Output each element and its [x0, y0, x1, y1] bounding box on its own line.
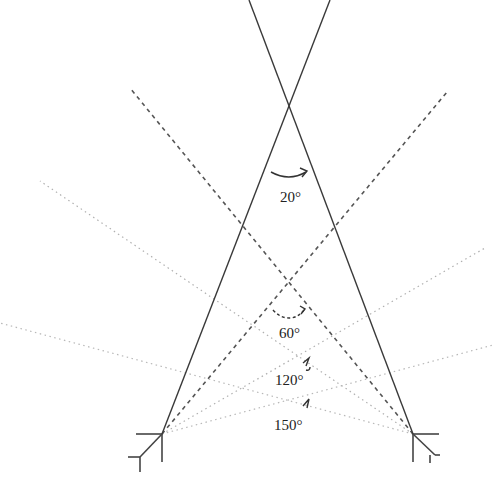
line-20-right [249, 0, 413, 434]
line-20-left [162, 0, 330, 434]
lines-150 [0, 323, 493, 434]
lines-120 [40, 181, 485, 434]
left-observer-fletching-icon [128, 434, 162, 472]
angle-label-60: 60° [279, 325, 300, 341]
line-60-right [130, 88, 413, 434]
line-150-right [0, 323, 413, 434]
angle-label-150: 150° [274, 417, 303, 433]
line-150-left [162, 345, 493, 434]
arc-60-arrowhead [300, 306, 305, 314]
line-120-left [162, 248, 485, 434]
arc-20 [271, 172, 306, 177]
arc-60 [273, 310, 304, 318]
right-observer-fletching-icon [413, 434, 440, 463]
line-120-right [40, 181, 413, 434]
angle-label-120: 120° [275, 372, 304, 388]
line-60-left [162, 92, 447, 434]
angle-diagram: 20° 60° 120° 150° [0, 0, 493, 499]
lines-20 [162, 0, 413, 434]
arc-150-arrowhead [303, 399, 309, 408]
angle-label-20: 20° [280, 189, 301, 205]
